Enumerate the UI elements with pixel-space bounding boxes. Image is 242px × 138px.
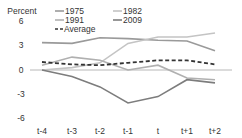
x-tick-label: t+2 xyxy=(209,126,221,136)
legend-item-average: Average xyxy=(55,24,96,34)
x-tick-label: t+1 xyxy=(181,126,193,136)
legend-label: 2009 xyxy=(123,15,142,25)
x-tick-label: t-4 xyxy=(37,126,47,136)
x-tick-label: t-3 xyxy=(67,126,77,136)
y-tick-label: -3 xyxy=(17,89,25,99)
series-line-2009 xyxy=(42,70,215,103)
y-tick-label: 6 xyxy=(19,16,24,26)
series-line-1975 xyxy=(42,38,215,51)
legend-label: Average xyxy=(64,24,96,34)
line-chart: Percent 6 3 0 -3 -6 1975 1982 1991 2009 … xyxy=(0,0,242,138)
legend: 1975 1982 1991 2009 Average xyxy=(55,6,142,34)
y-tick-label: 3 xyxy=(19,40,24,50)
x-tick-label: t xyxy=(157,126,160,136)
series-layer xyxy=(42,33,215,103)
x-tick-label: t-2 xyxy=(95,126,105,136)
y-tick-label: -6 xyxy=(17,113,25,123)
y-tick-label: 0 xyxy=(19,65,24,75)
series-line-average xyxy=(42,60,215,65)
x-axis-labels: t-4 t-3 t-2 t-1 t t+1 t+2 xyxy=(37,126,221,136)
legend-item-2009: 2009 xyxy=(113,15,142,25)
x-tick-label: t-1 xyxy=(123,126,133,136)
y-axis-title: Percent xyxy=(7,6,37,16)
y-axis-labels: 6 3 0 -3 -6 xyxy=(17,16,25,123)
